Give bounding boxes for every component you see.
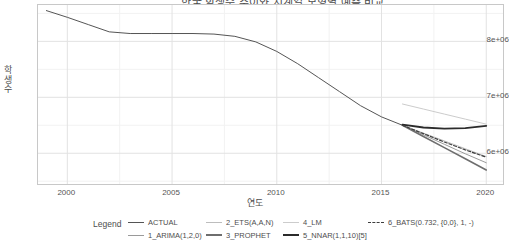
legend-item-label: ACTUAL: [148, 218, 178, 227]
y-tick-label: 6e+06: [475, 147, 509, 156]
plot-panel: [37, 4, 504, 185]
legend-item[interactable]: 5_NNAR(1,1,10)[5]: [283, 230, 367, 241]
series-layer: [46, 11, 486, 170]
x-tick-label: 2015: [361, 188, 401, 197]
legend-item-label: 4_LM: [303, 218, 322, 227]
x-tick-label: 2005: [151, 188, 191, 197]
series-line: [402, 125, 486, 170]
legend-item-label: 2_ETS(A,A,N): [226, 218, 274, 227]
legend-item[interactable]: ACTUAL: [128, 217, 178, 228]
x-tick-label: 2000: [46, 188, 86, 197]
series-line: [402, 125, 486, 162]
legend-swatch-icon: [283, 222, 299, 223]
legend-item-label: 6_BATS(0.732, {0,0}, 1, -): [388, 218, 474, 227]
legend-swatch-icon: [283, 234, 299, 236]
x-tick-label: 2020: [465, 188, 505, 197]
legend-swatch-icon: [206, 234, 222, 236]
legend-item[interactable]: 1_ARIMA(1,2,0): [128, 230, 202, 241]
legend-title: Legend: [93, 219, 121, 229]
legend-item[interactable]: 3_PROPHET: [206, 230, 271, 241]
legend-swatch-icon: [206, 222, 222, 223]
chart-legend: Legend ACTUAL1_ARIMA(1,2,0)2_ETS(A,A,N)3…: [0, 210, 509, 243]
legend-item-label: 1_ARIMA(1,2,0): [148, 231, 202, 240]
plot-canvas: [38, 5, 503, 184]
legend-swatch-icon: [128, 235, 144, 236]
legend-item[interactable]: 2_ETS(A,A,N): [206, 217, 274, 228]
y-tick-label: 8e+06: [475, 35, 509, 44]
legend-item-label: 3_PROPHET: [226, 231, 271, 240]
legend-swatch-icon: [128, 222, 144, 223]
series-line: [402, 104, 486, 124]
x-tick-label: 2010: [256, 188, 296, 197]
chart-root: 한국 학생수 추이와 시계열 모형별 예측 비교 학생수 연도 6e+067e+…: [0, 0, 509, 243]
legend-item[interactable]: 6_BATS(0.732, {0,0}, 1, -): [368, 217, 474, 228]
legend-item-label: 5_NNAR(1,1,10)[5]: [303, 231, 367, 240]
legend-swatch-icon: [368, 222, 384, 223]
legend-item[interactable]: 4_LM: [283, 217, 322, 228]
x-axis-title: 연도: [0, 196, 509, 209]
y-tick-label: 7e+06: [475, 91, 509, 100]
y-axis-title: 학생수: [1, 66, 15, 95]
